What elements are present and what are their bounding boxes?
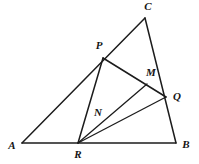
figure-canvas: CPMQNARB: [0, 0, 199, 164]
vertex-label-m: M: [145, 66, 157, 78]
vertex-label-n: N: [93, 106, 103, 118]
segment-cevian-RM: [78, 84, 147, 143]
segment-cevian-RQ: [78, 97, 166, 143]
labels-group: CPMQNARB: [7, 0, 189, 160]
geometry-figure: CPMQNARB: [0, 0, 199, 164]
segment-side-CB: [145, 18, 176, 143]
vertex-label-q: Q: [173, 90, 181, 102]
vertex-label-a: A: [7, 139, 15, 151]
vertex-label-p: P: [96, 39, 103, 51]
segments-group: [22, 18, 176, 143]
vertex-label-r: R: [73, 148, 81, 160]
vertex-label-b: B: [181, 138, 189, 150]
segment-cevian-PR: [78, 58, 103, 143]
vertex-label-c: C: [144, 0, 152, 12]
